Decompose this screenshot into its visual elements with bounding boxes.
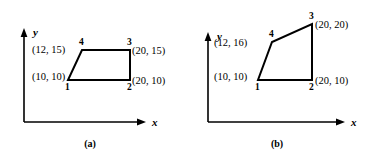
panel-a-polygon [68,50,130,80]
panel-a-coord-4: (12, 15) [32,44,66,56]
panel-a-vertex-num-4: 4 [79,37,84,47]
panel-b-coord-4: (12, 16) [214,37,248,49]
panel-a-x-axis [24,119,146,126]
panel-b-caption: (b) [247,138,307,149]
panel-b-vertex-num-2: 2 [309,82,314,92]
panel-a-caption: (a) [60,138,120,149]
panel-a-drawing: y x 1 2 3 4 (10, 10) (20, 10) (20, 15) (… [0,0,190,161]
panel-b-polygon [258,24,312,80]
panel-a-vertex-num-1: 1 [65,82,70,92]
panel-b-coord-2: (20, 10) [315,75,349,87]
panel-b-coord-3: (20, 20) [315,19,349,31]
panel-a-coord-2: (20, 10) [132,75,166,87]
panel-b-x-axis [208,119,345,126]
panel-a-coord-1: (10, 10) [32,71,66,83]
panel-b-vertex-num-4: 4 [269,29,274,39]
panel-a-y-axis [21,28,28,122]
panel-b-coord-1: (10, 10) [214,71,248,83]
figure-panel-a: y x 1 2 3 4 (10, 10) (20, 10) (20, 15) (… [0,0,190,161]
panel-b-vertex-num-1: 1 [255,82,260,92]
panel-a-coord-3: (20, 15) [132,45,166,57]
panel-b-drawing: y x 1 2 3 4 (10, 10) (20, 10) (20, 20) (… [190,0,380,161]
panel-b-x-axis-label: x [350,116,357,128]
panel-a-x-axis-label: x [151,116,158,128]
panel-b-vertex-num-3: 3 [309,11,314,21]
figure-container: y x 1 2 3 4 (10, 10) (20, 10) (20, 15) (… [0,0,380,161]
panel-a-y-axis-label: y [31,26,38,38]
panel-b-y-axis [205,32,212,122]
figure-panel-b: y x 1 2 3 4 (10, 10) (20, 10) (20, 20) (… [190,0,380,161]
